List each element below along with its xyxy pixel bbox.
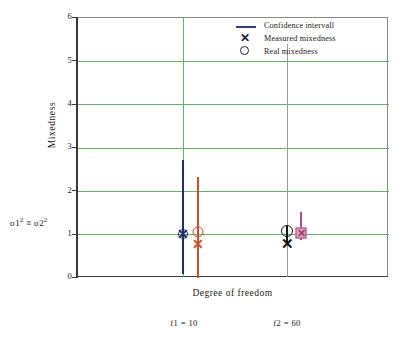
group-label-f2: f2 = 60	[245, 318, 329, 328]
legend-label-measured-mixedness: Measured mixedness	[264, 33, 336, 45]
gridline-y-2	[78, 191, 389, 192]
chart-legend: Confidence intervall ✕ Measured mixednes…	[234, 20, 384, 59]
measured-mixedness-marker-pink: ✕	[297, 226, 306, 240]
chart-figure: 0 1 2 3 4 5 6 Mixedness σ12 ≡ σ22 ✕ ✕	[0, 0, 410, 342]
sigma-label-text: σ12 ≡ σ22	[10, 218, 48, 228]
y-axis-title: Mixedness	[47, 65, 57, 185]
measured-mixedness-marker-navy: ✕	[177, 227, 189, 241]
x-axis-title: Degree of freedom	[77, 288, 388, 298]
gridline-y-5	[78, 61, 389, 62]
y-tick-label-0: 0	[50, 272, 72, 281]
gridline-y-1	[78, 234, 389, 235]
legend-item-confidence-interval: Confidence intervall	[234, 20, 384, 32]
group-label-f1: f1 = 10	[142, 318, 226, 328]
measured-mixedness-marker-orange: ✕	[192, 237, 204, 251]
y-tick-label-2: 2	[50, 186, 72, 195]
y-tick-label-6: 6	[50, 12, 72, 21]
legend-label-confidence-interval: Confidence intervall	[264, 20, 334, 32]
sigma-equality-label: σ12 ≡ σ22	[10, 216, 48, 228]
legend-item-measured-mixedness: ✕ Measured mixedness	[234, 33, 384, 45]
gridline-y-4	[78, 104, 389, 105]
legend-key-circle-icon	[234, 46, 260, 58]
legend-label-real-mixedness: Real mixedness	[264, 46, 318, 58]
legend-key-cross-icon: ✕	[234, 33, 260, 45]
legend-item-real-mixedness: Real mixedness	[234, 46, 384, 58]
ci-line-navy	[182, 160, 184, 274]
y-tick-label-5: 5	[50, 56, 72, 65]
gridline-y-3	[78, 148, 389, 149]
measured-mixedness-marker-black: ✕	[281, 237, 294, 251]
plot-area: ✕ ✕ ✕ ✕ Confidence intervall ✕ Measured …	[77, 17, 388, 277]
y-tick-label-1: 1	[50, 229, 72, 238]
